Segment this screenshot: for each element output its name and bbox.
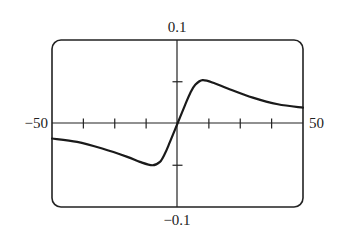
x-max-label: 50	[309, 115, 324, 131]
y-min-label: −0.1	[163, 212, 190, 228]
chart: 0.1 −0.1 −50 50	[0, 0, 338, 230]
y-max-label: 0.1	[168, 19, 187, 35]
x-min-label: −50	[25, 115, 48, 131]
